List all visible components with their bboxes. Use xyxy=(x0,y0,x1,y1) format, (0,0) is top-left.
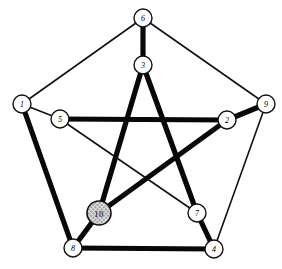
edge-10-3 xyxy=(99,65,143,213)
node-circle-8[interactable] xyxy=(64,239,82,257)
node-6[interactable]: 6 xyxy=(134,9,152,27)
node-circle-1[interactable] xyxy=(13,95,31,113)
node-circle-4[interactable] xyxy=(205,240,223,258)
edge-2-10 xyxy=(99,120,227,213)
node-circle-3[interactable] xyxy=(134,56,152,74)
node-9[interactable]: 9 xyxy=(257,95,275,113)
node-circle-9[interactable] xyxy=(257,95,275,113)
graph-figure: 12345678910 xyxy=(0,0,282,269)
node-circle-6[interactable] xyxy=(134,9,152,27)
graph-canvas: 12345678910 xyxy=(0,0,282,269)
node-3[interactable]: 3 xyxy=(134,56,152,74)
node-5[interactable]: 5 xyxy=(51,110,69,128)
edge-3-7 xyxy=(143,65,197,213)
edge-5-2 xyxy=(60,119,227,120)
node-circle-10[interactable] xyxy=(87,201,111,225)
edge-layer xyxy=(22,18,266,249)
edge-6-9 xyxy=(143,18,266,104)
node-circle-5[interactable] xyxy=(51,110,69,128)
node-circle-7[interactable] xyxy=(188,204,206,222)
edge-4-8 xyxy=(73,248,214,249)
node-8[interactable]: 8 xyxy=(64,239,82,257)
edge-1-6 xyxy=(22,18,143,104)
node-2[interactable]: 2 xyxy=(218,111,236,129)
node-10[interactable]: 10 xyxy=(87,201,111,225)
edge-7-5 xyxy=(60,119,197,213)
node-1[interactable]: 1 xyxy=(13,95,31,113)
node-7[interactable]: 7 xyxy=(188,204,206,222)
node-4[interactable]: 4 xyxy=(205,240,223,258)
node-circle-2[interactable] xyxy=(218,111,236,129)
